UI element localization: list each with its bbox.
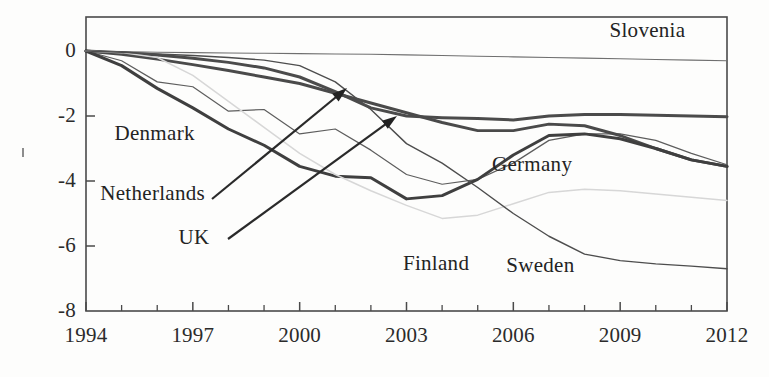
series-label-finland: Finland <box>403 251 469 276</box>
x-tick-label-2012: 2012 <box>682 323 769 348</box>
y-tick-label-neg2: -2 <box>28 103 76 128</box>
series-line-netherlands <box>86 51 727 166</box>
y-tick-label-neg6: -6 <box>28 233 76 258</box>
chart-figure: 0-2-4-6-8 1994199720002003200620092012 S… <box>0 0 769 377</box>
stray-mark <box>22 148 24 157</box>
x-tick-label-1994: 1994 <box>41 323 131 348</box>
series-label-uk: UK <box>179 225 210 250</box>
series-line-denmark <box>86 51 727 184</box>
x-tick-label-2006: 2006 <box>468 323 558 348</box>
x-tick-label-2009: 2009 <box>575 323 665 348</box>
y-tick-label-neg4: -4 <box>28 168 76 193</box>
x-tick-label-2000: 2000 <box>255 323 345 348</box>
series-label-germany: Germany <box>492 152 572 177</box>
y-tick-label-neg8: -8 <box>28 298 76 323</box>
series-label-denmark: Denmark <box>114 121 194 146</box>
x-tick-label-1997: 1997 <box>148 323 238 348</box>
series-label-slovenia: Slovenia <box>609 18 685 43</box>
y-tick-label-0: 0 <box>28 38 76 63</box>
series-label-netherlands: Netherlands <box>100 181 205 206</box>
series-label-sweden: Sweden <box>506 253 574 278</box>
x-tick-label-2003: 2003 <box>362 323 452 348</box>
